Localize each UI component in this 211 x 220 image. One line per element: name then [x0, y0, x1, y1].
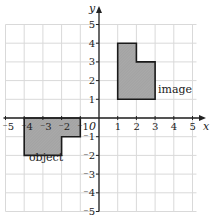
x-tick-label: ⁻5: [3, 121, 15, 132]
y-tick-label: 3: [89, 56, 95, 67]
y-tick-label: 1: [89, 94, 95, 105]
coordinate-grid: ⁻5⁻4⁻3⁻2⁻11234554321⁻1⁻2⁻3⁻4⁻50xyobjecti…: [0, 0, 210, 220]
x-tick-label: 2: [133, 121, 139, 132]
x-tick-label: 5: [190, 121, 196, 132]
labels: ⁻5⁻4⁻3⁻2⁻11234554321⁻1⁻2⁻3⁻4⁻50xyobjecti…: [3, 2, 211, 217]
y-tick-label: 2: [89, 75, 95, 86]
origin-label: 0: [89, 120, 96, 133]
y-tick-label: ⁻2: [83, 150, 95, 161]
x-tick-label: 1: [115, 121, 121, 132]
y-axis-arrow-icon: [96, 6, 102, 13]
x-tick-label: 3: [152, 121, 158, 132]
y-axis-label: y: [88, 2, 96, 15]
y-tick-label: ⁻5: [83, 206, 95, 217]
y-tick-label: ⁻4: [83, 187, 95, 198]
x-tick-label: 4: [171, 121, 177, 132]
y-tick-label: 4: [89, 38, 95, 49]
y-tick-label: 5: [89, 19, 95, 30]
x-axis-label: x: [203, 120, 210, 133]
object-label: object: [29, 151, 64, 164]
x-tick-label: ⁻2: [59, 121, 71, 132]
x-tick-label: ⁻4: [21, 121, 33, 132]
image-shape: [118, 43, 155, 99]
image-label: image: [158, 83, 192, 96]
y-tick-label: ⁻3: [83, 169, 95, 180]
axes: [4, 6, 207, 212]
x-tick-label: ⁻3: [40, 121, 52, 132]
